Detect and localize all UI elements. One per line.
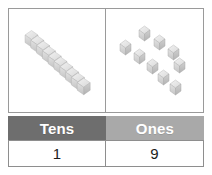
place-value-figure: Tens Ones 1 9: [0, 0, 212, 175]
tens-rod-panel: [9, 9, 106, 112]
header-cell-tens: Tens: [8, 116, 106, 140]
place-value-table: Tens Ones 1 9: [8, 116, 204, 167]
header-cell-ones: Ones: [106, 116, 204, 140]
unifix-rod-graphic: [9, 9, 106, 112]
ones-cubes-panel: [106, 9, 203, 112]
table-header-row: Tens Ones: [8, 116, 204, 140]
value-cell-ones: 9: [106, 140, 204, 167]
table-value-row: 1 9: [8, 140, 204, 167]
value-cell-tens: 1: [8, 140, 106, 167]
manipulatives-panels: [8, 8, 204, 113]
loose-cubes-graphic: [106, 9, 203, 112]
